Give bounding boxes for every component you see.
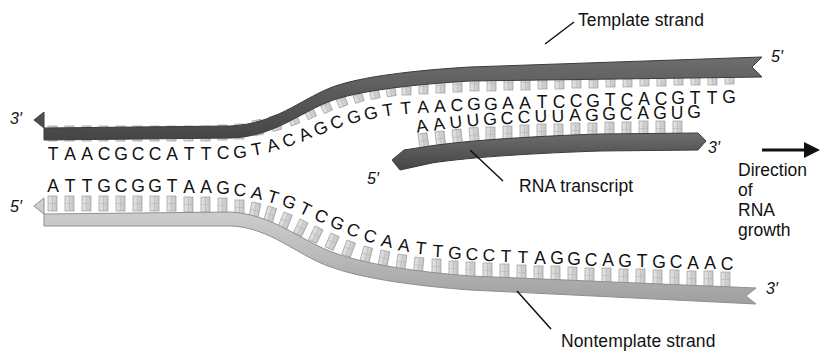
- base-letter: G: [549, 250, 565, 268]
- base-letter: C: [516, 109, 533, 127]
- base-letter: T: [45, 146, 61, 164]
- direction-line-1: Direction of: [738, 160, 824, 200]
- base-letter: C: [719, 256, 735, 274]
- base-letter: T: [164, 178, 180, 196]
- base-letter: G: [481, 110, 498, 129]
- base-letter: U: [669, 105, 685, 123]
- template-right-end-label: 5′: [771, 48, 783, 66]
- base-letter: A: [600, 252, 616, 270]
- base-letter: C: [130, 146, 146, 164]
- base-letter: C: [583, 252, 599, 270]
- base-letter: A: [395, 236, 413, 256]
- base-letter: C: [464, 246, 480, 264]
- rna-right-end-label: 3′: [708, 139, 720, 157]
- base-letter: T: [397, 99, 414, 118]
- base-letter: A: [702, 255, 718, 273]
- base-letter: G: [584, 107, 600, 125]
- base-letter: G: [721, 89, 737, 107]
- nontemplate-left-end-label: 5′: [10, 198, 22, 216]
- base-letter: G: [96, 178, 112, 196]
- base-letter: U: [533, 108, 550, 126]
- base-letter: A: [532, 250, 548, 268]
- base-letter: G: [686, 104, 702, 122]
- base-letter: T: [515, 249, 531, 267]
- base-letter: G: [113, 146, 129, 164]
- base-letter: A: [164, 146, 180, 164]
- base-letter: A: [181, 179, 197, 197]
- base-letter: C: [618, 106, 634, 124]
- base-letter: U: [464, 111, 482, 130]
- base-letter: C: [147, 146, 163, 164]
- template-strand-label: Template strand: [578, 10, 704, 31]
- base-letter: A: [430, 115, 448, 135]
- base-letter: C: [96, 146, 112, 164]
- base-letter: T: [498, 248, 514, 266]
- base-letter: A: [62, 146, 78, 164]
- base-letter: C: [113, 178, 129, 196]
- base-letter: T: [79, 178, 95, 196]
- direction-line-2: RNA growth: [738, 200, 824, 240]
- base-letter: A: [79, 146, 95, 164]
- direction-of-rna-growth-label: Direction of RNA growth: [738, 160, 824, 240]
- base-letter: G: [215, 180, 231, 198]
- base-letter: G: [652, 105, 668, 123]
- base-letter: T: [634, 253, 650, 271]
- figure-canvas: TAACGCCATTCGTACAGCGGTTAACGGAATCCGTCACGTT…: [0, 0, 824, 361]
- base-letter: G: [651, 254, 667, 272]
- base-letter: G: [447, 245, 464, 263]
- base-letter: G: [147, 178, 163, 196]
- base-letter: T: [198, 146, 214, 164]
- base-letter: T: [430, 243, 447, 261]
- base-letter: A: [415, 99, 432, 117]
- base-letter: G: [130, 178, 146, 196]
- nontemplate-leader-line: [517, 291, 551, 329]
- template-left-end-label: 3′: [10, 110, 22, 128]
- base-letter: A: [198, 179, 214, 197]
- direction-arrow-icon: [762, 142, 820, 158]
- base-letter: A: [413, 117, 432, 137]
- base-letter: U: [447, 113, 465, 132]
- base-letter: U: [550, 108, 567, 126]
- base-letter: A: [45, 178, 61, 196]
- base-letter: A: [635, 105, 651, 123]
- base-letter: T: [704, 90, 720, 108]
- base-letter: G: [232, 144, 249, 162]
- base-letter: C: [481, 247, 497, 265]
- nontemplate-strand-label: Nontemplate strand: [561, 331, 716, 352]
- base-letter: A: [567, 107, 583, 125]
- base-letter: C: [215, 145, 231, 163]
- base-letter: T: [181, 146, 197, 164]
- base-letter: T: [412, 239, 430, 258]
- rna-left-end-label: 5′: [367, 170, 379, 188]
- base-letter: A: [377, 232, 396, 252]
- base-letter: G: [601, 106, 617, 124]
- base-letter: C: [231, 181, 248, 200]
- template-leader-line: [545, 22, 574, 44]
- rna-transcript-label: RNA transcript: [519, 176, 633, 197]
- base-letter: C: [498, 109, 515, 128]
- base-letter: A: [685, 255, 701, 273]
- base-letter: T: [379, 101, 398, 121]
- base-letter: G: [566, 251, 582, 269]
- base-letter: T: [62, 178, 78, 196]
- base-letter: G: [617, 253, 633, 271]
- base-letter: C: [668, 254, 684, 272]
- nontemplate-right-end-label: 3′: [766, 280, 778, 298]
